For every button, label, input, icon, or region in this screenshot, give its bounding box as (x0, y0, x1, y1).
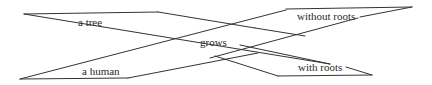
label-with-roots: with roots (298, 62, 342, 73)
with-roots-underline (278, 75, 372, 76)
with-roots-tip-line (346, 67, 372, 75)
label-a-tree: a tree (78, 17, 102, 28)
a-tree-underline (24, 12, 158, 14)
a-human-underline (20, 78, 128, 79)
label-a-human: a human (82, 66, 120, 77)
a-tree-to-with-roots-line (24, 14, 330, 64)
label-without-roots: without roots (297, 11, 355, 22)
grows-to-with-roots-line (215, 56, 278, 76)
without-roots-overline (286, 7, 412, 9)
label-grows: grows (200, 37, 227, 48)
a-tree-to-grows-line (158, 12, 255, 28)
without-roots-return-line (360, 7, 412, 17)
a-human-to-grows-line (128, 53, 258, 78)
